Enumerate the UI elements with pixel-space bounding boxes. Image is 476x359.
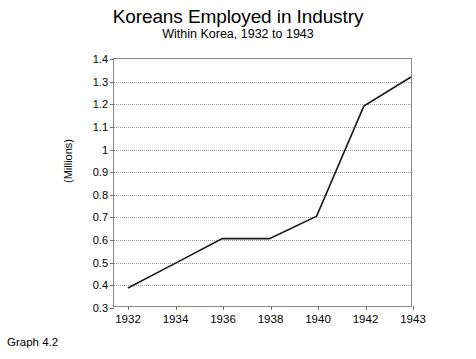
- y-tick-label: 1.4: [93, 54, 108, 65]
- x-tick-mark: [128, 306, 129, 310]
- x-tick-label: 1934: [163, 313, 189, 325]
- y-tick-label: 1: [102, 144, 108, 155]
- x-tick-mark: [318, 306, 319, 310]
- x-tick-label: 1940: [305, 313, 331, 325]
- y-tick-label: 0.7: [93, 212, 108, 223]
- x-tick-label: 1936: [210, 313, 236, 325]
- y-axis-label: (Millions): [63, 139, 74, 183]
- y-tick-label: 0.9: [93, 167, 108, 178]
- x-tick-label: 1943: [400, 313, 426, 325]
- chart-title-block: Koreans Employed in Industry Within Kore…: [0, 6, 476, 42]
- x-tick-mark: [176, 306, 177, 310]
- page-title: Koreans Employed in Industry: [0, 6, 476, 27]
- chart-figure: Koreans Employed in Industry Within Kore…: [0, 0, 476, 359]
- y-tick-label: 0.6: [93, 235, 108, 246]
- plot-inner: 0.30.40.50.60.70.80.911.11.21.31.4 19321…: [114, 59, 411, 306]
- x-tick-mark: [413, 306, 414, 310]
- data-series-line: [114, 59, 411, 306]
- x-tick-label: 1932: [115, 313, 141, 325]
- y-tick-label: 1.1: [93, 121, 108, 132]
- x-tick-label: 1942: [353, 313, 379, 325]
- x-tick-label: 1938: [258, 313, 284, 325]
- x-tick-mark: [223, 306, 224, 310]
- x-tick-mark: [366, 306, 367, 310]
- y-tick-label: 0.5: [93, 257, 108, 268]
- chart-subtitle: Within Korea, 1932 to 1943: [0, 27, 476, 42]
- x-tick-mark: [271, 306, 272, 310]
- y-tick-label: 0.3: [93, 303, 108, 314]
- y-tick-label: 1.3: [93, 76, 108, 87]
- figure-caption: Graph 4.2: [7, 336, 58, 349]
- y-tick-label: 0.8: [93, 189, 108, 200]
- y-tick-label: 0.4: [93, 280, 108, 291]
- y-tick-mark: [110, 308, 114, 309]
- plot-area: 0.30.40.50.60.70.80.911.11.21.31.4 19321…: [113, 58, 412, 307]
- y-tick-label: 1.2: [93, 99, 108, 110]
